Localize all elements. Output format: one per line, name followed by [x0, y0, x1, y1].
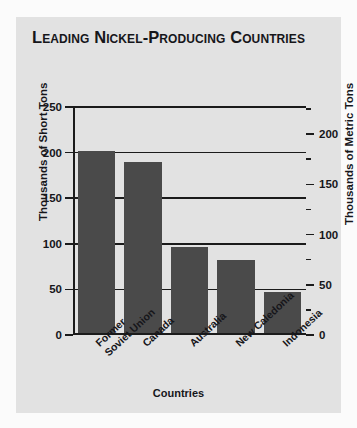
y-axis-left-line — [73, 107, 75, 335]
y-axis-left-tick — [65, 243, 73, 245]
y-axis-right-title: Thousands of Metric Tons — [343, 83, 355, 225]
y-axis-right-tick — [306, 184, 314, 186]
y-axis-left-tick — [65, 152, 73, 154]
y-axis-left-tick-label: 200 — [43, 147, 62, 159]
y-axis-left-tick-label: 250 — [43, 101, 62, 113]
y-axis-right-tick — [306, 284, 314, 286]
bar — [78, 151, 115, 333]
plot-area: 050100150200250 050100150200 Former Sovi… — [73, 107, 306, 335]
bar — [171, 247, 208, 333]
chart-title: Leading Nickel-Producing Countries — [32, 28, 322, 47]
y-axis-right-tick — [306, 334, 314, 336]
y-axis-right-tick-label: 150 — [319, 178, 338, 190]
y-axis-left-tick-label: 0 — [56, 329, 62, 341]
y-axis-right-minor-tick — [306, 158, 311, 160]
y-axis-left-tick-label: 100 — [43, 238, 62, 250]
gridline — [73, 106, 306, 108]
y-axis-left-tick — [65, 334, 73, 336]
y-axis-left-tick — [65, 289, 73, 291]
y-axis-right-minor-tick — [306, 108, 311, 110]
y-axis-right-minor-tick — [306, 209, 311, 211]
y-axis-right-tick-label: 100 — [319, 229, 338, 241]
y-axis-right-tick — [306, 234, 314, 236]
y-axis-right-minor-tick — [306, 259, 311, 261]
y-axis-right-tick-label: 0 — [319, 329, 325, 341]
y-axis-left-tick — [65, 106, 73, 108]
x-axis-title: Countries — [16, 387, 341, 399]
y-axis-right-tick-label: 200 — [319, 128, 338, 140]
y-axis-right-tick-label: 50 — [319, 279, 332, 291]
y-axis-left-tick-label: 150 — [43, 192, 62, 204]
y-axis-left-tick — [65, 197, 73, 199]
chart-figure-panel: Leading Nickel-Producing Countries Thous… — [16, 17, 341, 413]
y-axis-right-tick — [306, 133, 314, 135]
y-axis-left-tick-label: 50 — [49, 283, 62, 295]
